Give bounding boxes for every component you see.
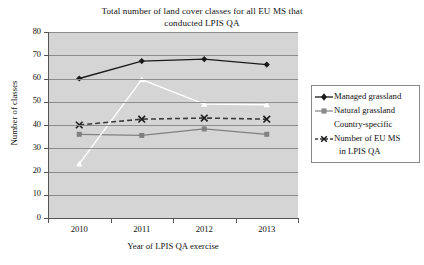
gridline-70 xyxy=(48,55,298,56)
y-axis-title: Number of classes xyxy=(9,53,19,173)
legend-item-managed-grassland: Managed grassland xyxy=(314,90,416,104)
y-tick-label: 50 xyxy=(0,97,41,105)
data-point-marker xyxy=(77,132,82,137)
y-tick-label: 40 xyxy=(0,121,41,129)
y-tick-label: 0 xyxy=(0,214,41,222)
y-tick-mark xyxy=(44,55,48,56)
legend-label-number-of-eu-ms-line-1: Number of EU MS xyxy=(334,133,400,143)
gridline-20 xyxy=(48,172,298,173)
y-tick-mark xyxy=(44,79,48,80)
cross-marker-icon xyxy=(314,132,334,146)
y-tick-label: 70 xyxy=(0,51,41,59)
chart-figure: Total number of land cover classes for a… xyxy=(0,0,424,265)
x-tick-label: 2012 xyxy=(176,224,232,234)
plot-area xyxy=(48,32,298,218)
x-tick-label: 2011 xyxy=(114,224,170,234)
chart-title-line-2: conducted LPIS QA xyxy=(52,17,352,29)
data-point-marker xyxy=(264,132,269,137)
series-line xyxy=(79,118,267,125)
gridline-40 xyxy=(48,125,298,126)
x-tick-mark xyxy=(236,219,237,223)
square-marker-icon xyxy=(314,104,334,118)
data-point-marker xyxy=(264,61,270,67)
legend-label-number-of-eu-ms: Number of EU MS in LPIS QA xyxy=(334,132,400,158)
series-line xyxy=(79,129,267,136)
x-tick-mark xyxy=(173,219,174,223)
x-tick-mark xyxy=(48,219,49,223)
y-tick-mark xyxy=(44,172,48,173)
y-tick-mark xyxy=(44,102,48,103)
legend-item-natural-grassland: Natural grassland xyxy=(314,104,416,118)
y-tick-mark xyxy=(44,32,48,33)
gridline-10 xyxy=(48,195,298,196)
triangle-marker-icon xyxy=(314,118,334,132)
chart-title-line-1: Total number of land cover classes for a… xyxy=(52,5,352,17)
y-tick-mark xyxy=(44,148,48,149)
gridline-50 xyxy=(48,102,298,103)
legend-item-number-of-eu-ms: Number of EU MS in LPIS QA xyxy=(314,132,416,158)
series-line xyxy=(79,59,267,78)
y-tick-label: 80 xyxy=(0,28,41,36)
gridline-60 xyxy=(48,79,298,80)
chart-legend: Managed grassland Natural grassland Coun… xyxy=(311,85,420,163)
gridline-80 xyxy=(48,32,298,33)
data-point-marker xyxy=(139,133,144,138)
y-tick-label: 20 xyxy=(0,167,41,175)
y-tick-mark xyxy=(44,125,48,126)
x-tick-label: 2010 xyxy=(51,224,107,234)
chart-title: Total number of land cover classes for a… xyxy=(52,5,352,29)
diamond-marker-icon xyxy=(314,90,334,104)
y-tick-mark xyxy=(44,195,48,196)
x-tick-mark xyxy=(111,219,112,223)
series-country-specific xyxy=(76,76,270,166)
legend-label-number-of-eu-ms-line-2: in LPIS QA xyxy=(334,145,400,158)
data-point-marker xyxy=(202,126,207,131)
data-point-marker xyxy=(201,56,207,62)
legend-label-natural-grassland: Natural grassland xyxy=(334,104,395,117)
y-tick-label: 60 xyxy=(0,74,41,82)
x-tick-label: 2013 xyxy=(239,224,295,234)
x-tick-mark xyxy=(298,219,299,223)
legend-label-managed-grassland: Managed grassland xyxy=(334,90,401,103)
x-axis-title: Year of LPIS QA exercise xyxy=(48,241,298,251)
data-point-marker xyxy=(139,58,145,64)
y-axis-line xyxy=(48,32,49,219)
legend-item-country-specific: Country-specific xyxy=(314,118,416,132)
series-number-of-eu-ms-in-lpis-qa xyxy=(76,115,270,129)
legend-label-country-specific: Country-specific xyxy=(334,118,392,131)
y-tick-label: 30 xyxy=(0,144,41,152)
y-tick-label: 10 xyxy=(0,190,41,198)
gridline-30 xyxy=(48,148,298,149)
